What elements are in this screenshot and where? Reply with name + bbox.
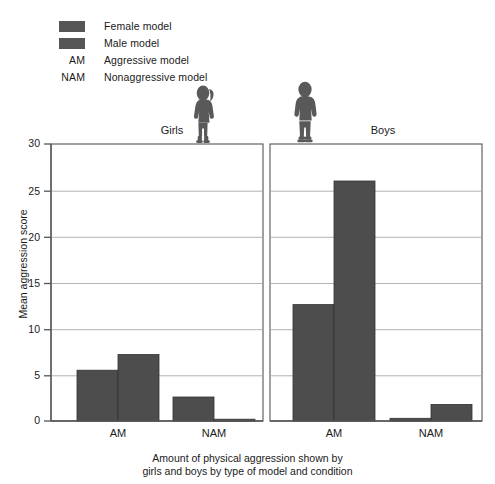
figure-caption: Amount of physical aggression shown by g… (0, 452, 495, 478)
bar-boys-nam-male (431, 404, 472, 421)
bar-girls-am-female (77, 370, 118, 421)
bar-boys-am-male (334, 181, 375, 421)
bar-girls-nam-female (173, 397, 214, 421)
xtick-boys-nam: NAM (401, 427, 461, 439)
ytick-0: 0 (18, 415, 40, 426)
panel-title-boys: Boys (348, 124, 418, 136)
caption-line-2: girls and boys by type of model and cond… (0, 465, 495, 478)
y-axis-ticks (44, 144, 51, 421)
caption-line-1: Amount of physical aggression shown by (0, 452, 495, 465)
figure-root: Female model Male model AM Aggressive mo… (0, 0, 495, 484)
xtick-boys-am: AM (304, 427, 364, 439)
bar-boys-am-female (293, 305, 334, 421)
bar-girls-am-male (118, 355, 159, 422)
panel-title-girls: Girls (137, 124, 207, 136)
xtick-girls-nam: NAM (184, 427, 244, 439)
ytick-30: 30 (18, 138, 40, 149)
xtick-girls-am: AM (88, 427, 148, 439)
ytick-5: 5 (18, 370, 40, 381)
plot-area (0, 0, 495, 450)
y-axis-label: Mean aggression score (17, 194, 29, 334)
